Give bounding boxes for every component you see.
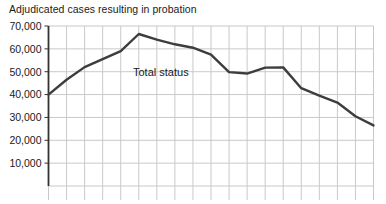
y-axis-tick-label: 70,000: [9, 20, 41, 32]
series-annotation-label: Total status: [133, 66, 189, 78]
x-axis-ticks: [49, 186, 374, 200]
line-chart-svg: 70,00060,00050,00040,00030,00020,00010,0…: [0, 0, 386, 204]
y-axis-tick-label: 30,000: [9, 111, 41, 123]
plot-area: 70,00060,00050,00040,00030,00020,00010,0…: [0, 0, 386, 204]
y-axis-tick-labels: 70,00060,00050,00040,00030,00020,00010,0…: [9, 20, 41, 169]
y-axis-tick-label: 60,000: [9, 43, 41, 55]
y-axis-tick-label: 40,000: [9, 88, 41, 100]
chart-container: Adjudicated cases resulting in probation…: [0, 0, 386, 204]
y-axis-tick-label: 10,000: [9, 157, 41, 169]
vertical-gridlines: [67, 26, 374, 186]
y-axis-tick-label: 20,000: [9, 134, 41, 146]
y-axis-tick-label: 50,000: [9, 66, 41, 78]
